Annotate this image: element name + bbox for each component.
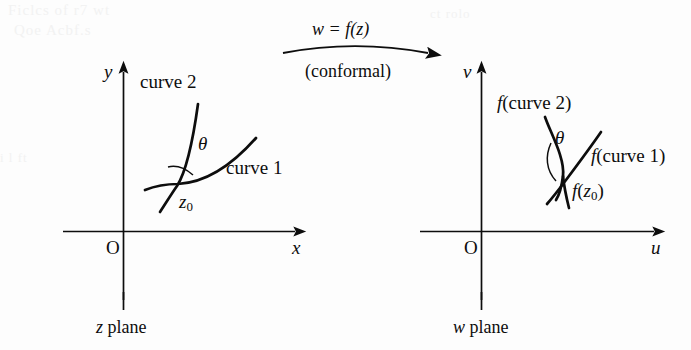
right-plane-caption: w plane bbox=[453, 318, 509, 336]
left-angle-arc bbox=[168, 166, 193, 175]
f-curve-2-label: f(curve 2) bbox=[497, 93, 571, 112]
z0-point-label-sub: 0 bbox=[186, 199, 192, 214]
curve-1-label: curve 1 bbox=[226, 158, 282, 177]
right-angle-arc bbox=[547, 143, 556, 181]
left-x-axis-label: x bbox=[292, 238, 300, 257]
right-theta-label: θ bbox=[555, 128, 564, 147]
right-u-axis-label: u bbox=[651, 238, 661, 257]
z0-point-label: z0 bbox=[179, 192, 193, 214]
f-z0-point-label: f(z0) bbox=[572, 181, 604, 203]
right-arrow-icon bbox=[283, 46, 428, 53]
left-theta-label: θ bbox=[198, 134, 207, 153]
left-plane-axes bbox=[63, 72, 295, 300]
f-curve-1-label: f(curve 1) bbox=[591, 146, 665, 165]
diagram-graphics bbox=[0, 0, 691, 350]
mapping-sublabel: (conformal) bbox=[305, 62, 391, 80]
left-origin-label: O bbox=[106, 238, 120, 257]
mapping-arrow-group bbox=[283, 46, 428, 53]
left-plane-caption: z plane bbox=[96, 318, 147, 336]
left-y-axis-label: y bbox=[104, 62, 112, 81]
figure-canvas: Ficlcs of r7 wt Qoe Acbf.s i l ft ct rol… bbox=[0, 0, 691, 350]
mapping-label: w = f(z) bbox=[312, 20, 369, 38]
curve-2-label: curve 2 bbox=[140, 72, 196, 91]
right-v-axis-label: v bbox=[463, 62, 471, 81]
right-origin-label: O bbox=[464, 238, 478, 257]
